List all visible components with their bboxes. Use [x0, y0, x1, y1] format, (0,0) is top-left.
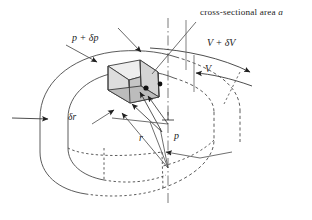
bottom-pointer-leader: [166, 152, 232, 158]
delta-r-arrow: [92, 110, 114, 124]
pressure-outer-arrow-right: [118, 28, 141, 52]
cross-section-symbol: a: [278, 7, 283, 17]
velocity-outer-arrow-path: [150, 48, 250, 72]
pressure-outer-label: p + δp: [72, 33, 98, 43]
pressure-outer-arrow-left: [66, 45, 97, 62]
element-center-dot: [143, 85, 148, 90]
annulus-outer-left-wall: [40, 118, 86, 194]
annulus-inner-floor-arc: [68, 148, 162, 155]
cross-section-label: cross-sectional area a: [200, 8, 283, 17]
velocity-inner-label: V: [205, 64, 211, 74]
radius-horizontal-leader: [112, 118, 168, 124]
radius-leader-c: [160, 128, 168, 168]
annulus-inner-left-wall: [68, 118, 104, 180]
annulus-outer-bottom-arc: [86, 188, 163, 196]
velocity-outer-label: V + δV: [207, 38, 235, 48]
radius-label: r: [139, 133, 143, 143]
element-outer-dot: [158, 82, 163, 87]
figure-root: cross-sectional area a p + δp V + δV V δ…: [0, 0, 312, 220]
cross-section-text: cross-sectional area: [200, 7, 278, 17]
radial-thickness-label: δr: [68, 113, 76, 123]
pressure-inner-arrow-2: [132, 104, 162, 132]
inflow-arrow: [12, 118, 48, 119]
velocity-streamline-outer: [150, 48, 250, 72]
fluid-element: [108, 60, 162, 103]
inflow-arrow-path: [12, 118, 48, 119]
upper-vertical-guides: [186, 20, 194, 92]
bottom-pointer-tail: [200, 152, 232, 158]
cross-section-leader-line: [152, 22, 196, 74]
delta-r-pointer: [92, 110, 114, 124]
pressure-inner-label: p: [174, 131, 179, 141]
annulus-inner-bottom-arc: [104, 175, 166, 182]
cross-section-leader: [152, 22, 196, 74]
annulus-element-diagram: [0, 0, 312, 220]
bottom-pointer-arrow: [166, 152, 200, 158]
annulus-inner-right-vertical-hidden: [162, 152, 163, 188]
